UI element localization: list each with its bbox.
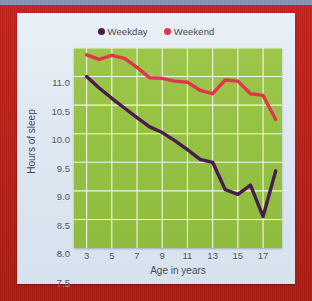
chart-card: Weekday Weekend Hours of sleep 7.58.08.5… <box>17 13 295 284</box>
y-tick-label: 8.5 <box>20 221 70 231</box>
y-axis-ticks: 7.58.08.59.09.510.010.511.0 <box>17 48 70 248</box>
plot-wrapper: Hours of sleep 7.58.08.59.09.510.010.511… <box>17 13 295 284</box>
series-lines <box>87 55 276 217</box>
y-tick-label: 9.0 <box>20 192 70 202</box>
y-tick-label: 10.0 <box>20 135 70 145</box>
y-tick-label: 7.5 <box>20 278 70 288</box>
y-tick-label: 11.0 <box>20 78 70 88</box>
gridlines <box>74 48 282 248</box>
x-tick-label: 3 <box>84 251 89 261</box>
x-tick-label: 7 <box>134 251 139 261</box>
y-tick-label: 8.0 <box>20 249 70 259</box>
chart-figure: Weekday Weekend Hours of sleep 7.58.08.5… <box>0 0 312 301</box>
x-tick-label: 17 <box>258 251 269 261</box>
y-tick-label: 10.5 <box>20 107 70 117</box>
plot-area <box>74 48 282 248</box>
x-tick-label: 11 <box>183 251 193 261</box>
x-tick-label: 9 <box>160 251 165 261</box>
series-line-weekday <box>87 77 276 217</box>
series-line-weekend <box>87 55 276 120</box>
x-tick-label: 13 <box>207 251 218 261</box>
x-tick-label: 5 <box>109 251 114 261</box>
chart-svg <box>74 48 282 248</box>
chart-card-inner: Weekday Weekend Hours of sleep 7.58.08.5… <box>17 13 295 284</box>
x-axis-title: Age in years <box>74 265 282 276</box>
y-tick-label: 9.5 <box>20 164 70 174</box>
x-axis-ticks: 357911131517 <box>74 251 282 265</box>
x-tick-label: 15 <box>233 251 244 261</box>
